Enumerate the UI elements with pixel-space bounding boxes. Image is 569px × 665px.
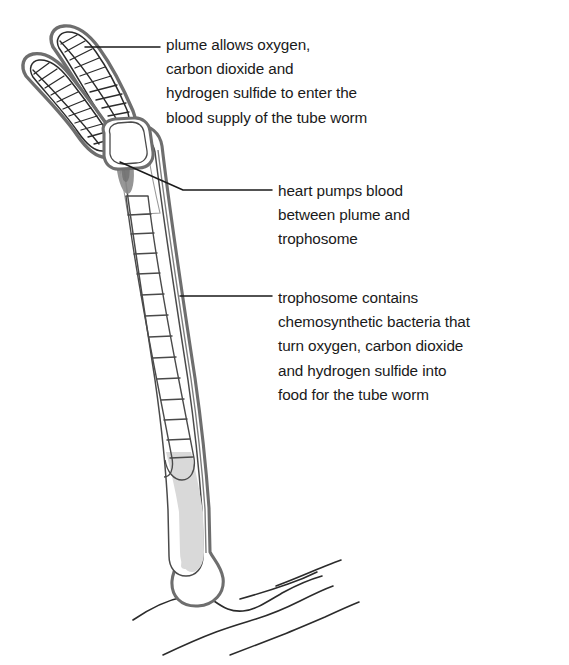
trophosome-rung: [170, 457, 193, 458]
plume-collar-inner: [109, 122, 147, 164]
seafloor-lines: [133, 560, 359, 655]
trophosome-rung: [149, 336, 172, 337]
ground-line-5: [276, 560, 341, 586]
trophosome-rung: [145, 315, 168, 316]
trophosome-rung: [128, 214, 151, 215]
trophosome-annotation-text: trophosome contains chemosynthetic bacte…: [278, 286, 568, 407]
trophosome-rung: [134, 253, 157, 254]
plume-annotation-text: plume allows oxygen, carbon dioxide and …: [166, 33, 456, 130]
trophosome-rung: [153, 357, 176, 358]
trophosome-rung: [167, 439, 190, 440]
trophosome-rung: [161, 399, 184, 400]
tube-worm-diagram: plume allows oxygen, carbon dioxide and …: [0, 0, 569, 665]
trophosome-rung: [137, 273, 160, 274]
trophosome-rung: [157, 378, 180, 379]
trophosome-rung: [141, 294, 164, 295]
heart-annotation-text: heart pumps blood between plume and trop…: [278, 179, 558, 252]
trophosome-rung: [131, 233, 154, 234]
trophosome-rung: [164, 419, 187, 420]
